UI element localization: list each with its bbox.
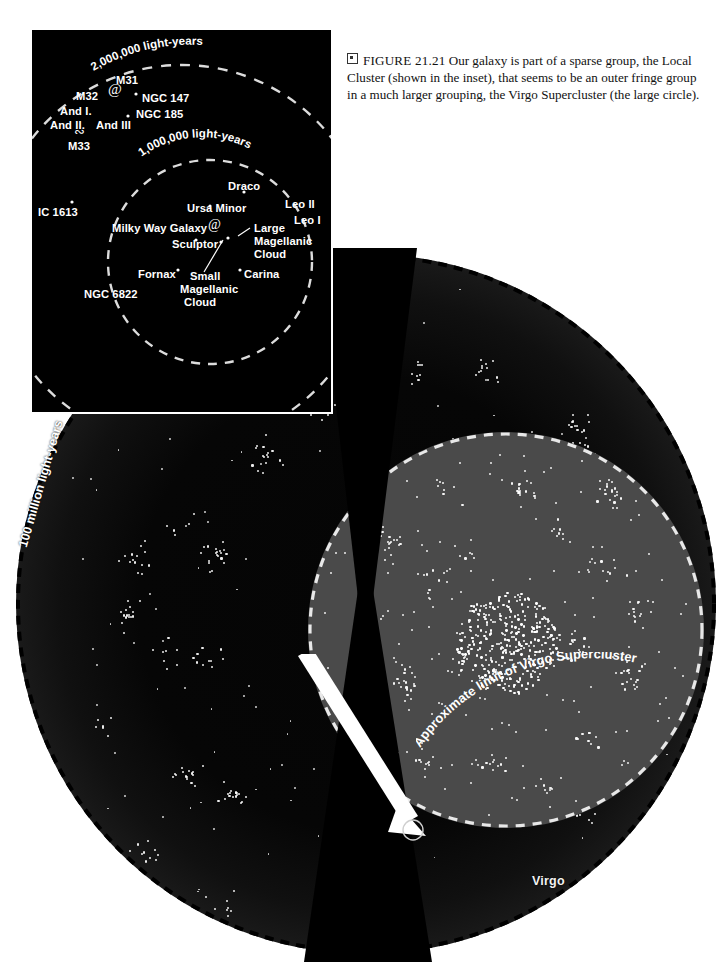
galaxy-dot xyxy=(514,615,516,617)
galaxy-dot xyxy=(228,795,230,797)
galaxy-dot xyxy=(459,289,461,291)
galaxy-dot xyxy=(139,600,141,602)
galaxy-dot xyxy=(682,675,684,677)
galaxy-dot xyxy=(437,405,439,407)
galaxy-dot xyxy=(606,580,608,582)
galaxy-dot xyxy=(211,708,213,710)
galaxy-dot xyxy=(211,570,213,572)
galaxy-dot xyxy=(501,479,503,481)
galaxy-dot xyxy=(120,611,122,613)
galaxy-dot xyxy=(428,764,430,766)
galaxy-dot xyxy=(513,636,515,638)
galaxy-dot xyxy=(504,683,506,685)
galaxy-dot xyxy=(599,480,601,482)
galaxy-dot xyxy=(478,371,480,373)
galaxy-dot xyxy=(387,610,389,612)
galaxy-dot xyxy=(606,483,608,485)
galaxy-dot xyxy=(616,494,618,496)
galaxy-dot xyxy=(162,640,164,642)
galaxy-dot xyxy=(453,486,455,488)
galaxy-dot xyxy=(432,756,434,758)
galaxy-dot xyxy=(490,462,492,464)
galaxy-dot xyxy=(502,647,504,649)
galaxy-dot xyxy=(256,445,258,447)
galaxy-dot xyxy=(149,857,151,859)
galaxy-dot xyxy=(511,621,513,623)
galaxy-dot xyxy=(480,605,482,607)
galaxy-dot xyxy=(530,482,532,484)
galaxy-dot xyxy=(484,698,486,700)
galaxy-dot xyxy=(475,374,477,376)
galaxy-dot xyxy=(466,658,468,660)
galaxy-dot xyxy=(486,621,488,623)
galaxy-dot xyxy=(535,518,537,520)
galaxy-dot xyxy=(470,630,472,632)
galaxy-dot xyxy=(526,480,528,482)
galaxy-dot xyxy=(232,796,234,798)
galaxy-dot xyxy=(175,774,177,776)
galaxy-dot xyxy=(485,604,487,606)
galaxy-dot xyxy=(547,628,549,630)
milky-way-spiral-icon: @ xyxy=(208,217,221,232)
galaxy-dot xyxy=(553,665,555,667)
galaxy-dot xyxy=(535,785,537,787)
galaxy-dot xyxy=(446,570,448,572)
galaxy-dot xyxy=(604,493,606,495)
galaxy-dot xyxy=(270,768,272,770)
galaxy-dot xyxy=(141,564,143,566)
galaxy-dot xyxy=(621,659,623,661)
galaxy-dot xyxy=(447,670,449,672)
galaxy-dot xyxy=(553,528,555,530)
galaxy-dot xyxy=(190,782,192,784)
galaxy-dot xyxy=(680,613,682,615)
galaxy-dot xyxy=(129,606,131,608)
galaxy-dot xyxy=(510,610,512,612)
galaxy-dot xyxy=(520,648,522,650)
galaxy-dot xyxy=(514,626,516,628)
galaxy-dot xyxy=(485,762,487,764)
galaxy-dot xyxy=(473,557,475,559)
galaxy-dot xyxy=(461,504,463,506)
galaxy-dot xyxy=(544,625,546,627)
galaxy-dot xyxy=(458,662,460,664)
galaxy-dot xyxy=(659,703,661,705)
galaxy-dot xyxy=(438,579,440,581)
galaxy-dot xyxy=(524,598,526,600)
galaxy-dot xyxy=(72,477,74,479)
galaxy-dot xyxy=(541,661,543,663)
galaxy-dot xyxy=(241,451,243,453)
galaxy-dot xyxy=(476,654,478,656)
galaxy-dot xyxy=(473,643,475,645)
galaxy-dot xyxy=(231,460,233,462)
galaxy-dot xyxy=(628,672,630,674)
galaxy-dot xyxy=(518,483,520,485)
galaxy-dot xyxy=(174,534,176,536)
galaxy-dot xyxy=(556,535,558,537)
galaxy-dot xyxy=(588,646,590,648)
galaxy-dot xyxy=(405,681,407,683)
galaxy-dot xyxy=(499,615,501,617)
galaxy-dot xyxy=(396,539,398,541)
galaxy-dot xyxy=(480,359,482,361)
galaxy-dot xyxy=(546,694,548,696)
galaxy-dot xyxy=(542,636,544,638)
galaxy-dot xyxy=(591,558,593,560)
galaxy-dot xyxy=(403,672,405,674)
galaxy-dot xyxy=(224,798,226,800)
galaxy-dot xyxy=(529,658,531,660)
galaxy-dot xyxy=(539,621,541,623)
galaxy-dot xyxy=(475,759,477,761)
galaxy-dot xyxy=(517,662,519,664)
galaxy-dot xyxy=(181,767,183,769)
galaxy-dot xyxy=(552,651,554,653)
galaxy-dot xyxy=(491,728,493,730)
galaxy-dot xyxy=(592,546,594,548)
inset-object-label: And II. xyxy=(50,119,85,131)
galaxy-dot xyxy=(627,762,629,764)
galaxy-dot xyxy=(387,572,389,574)
galaxy-dot xyxy=(236,589,238,591)
galaxy-dot xyxy=(594,562,596,564)
inset-object-label: NGC 185 xyxy=(136,108,183,120)
galaxy-dot xyxy=(549,648,551,650)
galaxy-dot xyxy=(226,900,228,902)
